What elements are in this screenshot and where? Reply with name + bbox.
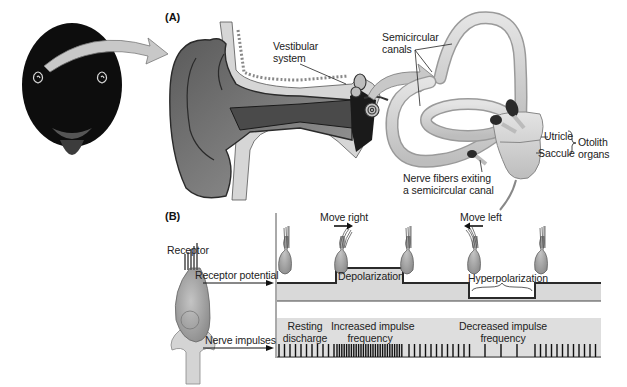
label-nerve-fibers-line1: Nerve fibers exiting	[403, 172, 491, 184]
label-resting-line1: Resting	[279, 320, 331, 332]
label-semicircular-line1: Semicircular	[382, 31, 439, 43]
hair-cell-neutral-1-icon	[279, 226, 292, 274]
label-vestibular-line2: system	[273, 52, 306, 64]
receptor-potential-trace	[277, 268, 601, 301]
receptor-hair-cell-icon	[171, 243, 215, 384]
label-vestibular-line1: Vestibular	[273, 40, 318, 52]
hair-cell-neutral-3-icon	[535, 226, 548, 274]
panel-a-letter: (A)	[165, 11, 180, 23]
label-receptor: Receptor	[167, 244, 209, 256]
panel-b-letter: (B)	[165, 210, 180, 222]
move-left-arrow-icon	[464, 223, 483, 230]
label-nerve-fibers-line2: a semicircular canal	[403, 184, 494, 196]
label-increased-line2: frequency	[331, 332, 409, 344]
label-decreased-line2: frequency	[455, 332, 551, 344]
label-move-right: Move right	[320, 211, 368, 223]
label-hyperpolarization: Hyperpolarization	[468, 272, 548, 284]
label-resting-line2: discharge	[279, 332, 331, 344]
label-increased-line1: Increased impulse	[331, 320, 409, 332]
label-saccule: Saccule	[538, 147, 575, 159]
label-decreased-line1: Decreased impulse	[455, 320, 551, 332]
hair-cell-bent-left-icon	[466, 227, 481, 274]
move-right-arrow-icon	[334, 223, 353, 230]
label-receptor-potential: Receptor potential	[195, 269, 278, 281]
label-otolith-line2: organs	[578, 148, 610, 160]
label-move-left: Move left	[460, 211, 502, 223]
hair-cell-neutral-2-icon	[401, 226, 414, 274]
label-utricle: Utricle	[544, 130, 573, 142]
hair-cell-row	[279, 226, 548, 274]
label-depolarization: Depolarization	[338, 270, 404, 282]
label-semicircular-line2: canals	[382, 43, 412, 55]
label-nerve-impulses: Nerve impulses	[205, 334, 276, 346]
label-otolith-line1: Otolith	[578, 136, 608, 148]
